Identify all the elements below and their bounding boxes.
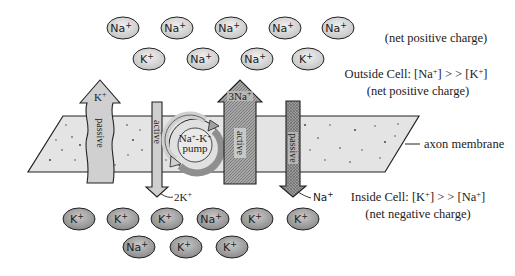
ion-k: K+ [292, 48, 324, 70]
inside-charge-note: (net negative charge) [365, 207, 470, 221]
ion-k: K+ [241, 208, 273, 230]
outside-ions-row1: Na+ Na+ Na+ Na+ Na+ [107, 17, 354, 39]
na-passive-ion-label: Na+ [313, 190, 334, 203]
na-passive-type-label: passive [288, 133, 299, 163]
ion-na: Na+ [107, 17, 139, 39]
inside-ions-row1: K+ K+ K+ Na+ K+ K+ [63, 208, 319, 230]
ion-na: Na+ [187, 48, 219, 70]
na-active-type-label: active [235, 131, 246, 155]
ion-k: K+ [287, 208, 319, 230]
inside-ions-row2: Na+ K+ K+ [123, 236, 248, 258]
ion-na: Na+ [269, 17, 301, 39]
k-active-ion-label: 2K+ [174, 190, 192, 203]
ion-na: Na+ [215, 17, 247, 39]
ion-k: K+ [63, 208, 95, 230]
ion-k: K+ [151, 208, 183, 230]
ion-na: Na+ [322, 17, 354, 39]
outside-cell-title: Outside Cell: [Na+] > > [K+] [345, 66, 488, 81]
na-k-pump: Na+-K+ pump [165, 115, 221, 173]
ion-na: Na+ [241, 48, 273, 70]
ion-k: K+ [133, 48, 165, 70]
k-active-type-label: active [152, 120, 163, 144]
ion-k: K+ [170, 236, 202, 258]
ion-k: K+ [216, 236, 248, 258]
ion-k: K+ [107, 208, 139, 230]
ion-na: Na+ [197, 208, 229, 230]
na-active-arrow: 3Na+ active [218, 80, 262, 184]
outside-ions-row2: K+ Na+ Na+ K+ [133, 48, 324, 70]
ion-na: Na+ [123, 236, 155, 258]
top-charge-note: (net positive charge) [385, 31, 488, 45]
k-passive-type-label: passive [95, 118, 106, 148]
outside-charge-note: (net positive charge) [367, 84, 470, 98]
inside-cell-title: Inside Cell: [K+] > > [Na+] [351, 189, 485, 204]
ion-na: Na+ [161, 17, 193, 39]
pump-label-line2: pump [182, 142, 208, 154]
sodium-potassium-pump-diagram: K+ passive active 2K+ Na+-K+ pump 3Na+ a… [0, 0, 515, 276]
membrane-label: axon membrane [424, 137, 505, 151]
